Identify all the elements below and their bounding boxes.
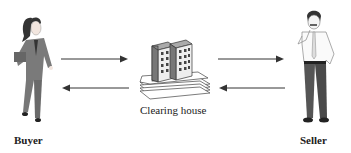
office-buildings-icon xyxy=(138,38,214,100)
arrow-clearing-house-to-buyer xyxy=(62,85,129,92)
arrow-clearing-house-to-seller xyxy=(218,56,284,63)
arrow-seller-to-clearing-house xyxy=(219,85,285,92)
clearing-house-figure xyxy=(138,38,214,100)
arrow-buyer-to-clearing-house xyxy=(61,56,128,63)
buyer-label: Buyer xyxy=(14,134,43,146)
clearing-house-label: Clearing house xyxy=(140,104,206,116)
seller-label: Seller xyxy=(300,134,327,146)
